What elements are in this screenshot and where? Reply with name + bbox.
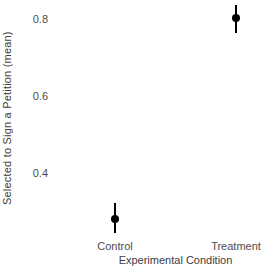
data-point: [232, 14, 240, 22]
y-axis-title: Selected to Sign a Petition (mean): [1, 0, 13, 236]
x-axis-title: Experimental Condition: [0, 254, 265, 266]
x-category-label: Control: [75, 240, 155, 252]
chart: Selected to Sign a Petition (mean) Exper…: [0, 0, 265, 273]
y-tick-label: 0.6: [14, 90, 48, 103]
x-category-label: Treatment: [196, 240, 265, 252]
y-tick-label: 0.8: [14, 13, 48, 26]
y-tick-label: 0.4: [14, 167, 48, 180]
plot-area: [0, 0, 265, 236]
